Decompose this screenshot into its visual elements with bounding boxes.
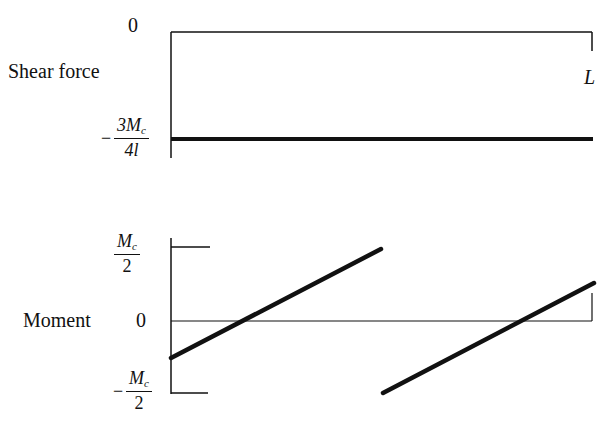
shear-value-sign: −	[101, 128, 111, 149]
shear-ylabel: Shear force	[8, 60, 100, 83]
shear-end-label: L	[584, 66, 595, 89]
moment-bottom-sign: −	[113, 381, 123, 402]
moment-top-label: Mc 2	[114, 232, 140, 275]
moment-segment-2	[383, 283, 594, 393]
shear-zero-label: 0	[128, 14, 138, 37]
moment-zero-label: 0	[136, 309, 146, 332]
moment-segment-1	[171, 249, 381, 358]
shear-value-label: 3Mc 4l	[114, 116, 149, 159]
moment-ylabel: Moment	[23, 309, 91, 332]
moment-bottom-label: Mc 2	[126, 369, 152, 412]
